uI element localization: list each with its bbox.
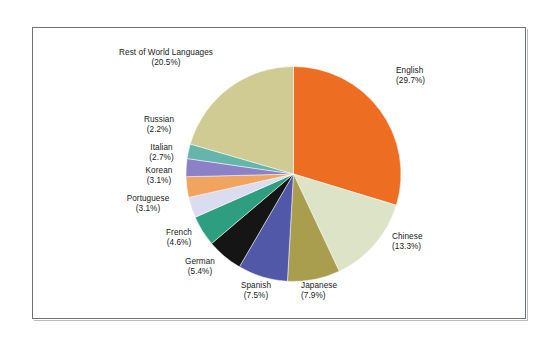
slice-label-percent: (29.7%) xyxy=(396,76,476,86)
slice-label-name: English xyxy=(396,66,476,76)
slice-label-percent: (20.5%) xyxy=(97,58,235,68)
slice-label-chinese: Chinese (13.3%) xyxy=(392,232,472,253)
slice-label-english: English (29.7%) xyxy=(396,66,476,87)
pie-chart-figure: Rest of World Languages (20.5%) English … xyxy=(0,0,555,345)
slice-label-percent: (2.2%) xyxy=(126,125,192,135)
slice-label-percent: (2.7%) xyxy=(133,153,190,163)
slice-label-percent: (7.5%) xyxy=(222,291,290,301)
slice-label-russian: Russian (2.2%) xyxy=(126,115,192,136)
slice-label-name: Portuguese xyxy=(107,194,189,204)
slice-label-name: Spanish xyxy=(222,281,290,291)
slice-label-percent: (13.3%) xyxy=(392,242,472,252)
slice-label-japanese: Japanese (7.9%) xyxy=(301,281,371,302)
pie-slice-group xyxy=(186,66,401,281)
slice-label-name: Russian xyxy=(126,115,192,125)
slice-label-name: German xyxy=(168,257,232,267)
slice-label-percent: (3.1%) xyxy=(128,176,190,186)
slice-label-name: Japanese xyxy=(301,281,371,291)
slice-label-rest-of-world: Rest of World Languages (20.5%) xyxy=(97,48,235,69)
slice-label-percent: (3.1%) xyxy=(107,204,189,214)
slice-label-name: Chinese xyxy=(392,232,472,242)
slice-label-percent: (4.6%) xyxy=(148,238,210,248)
slice-label-korean: Korean (3.1%) xyxy=(128,166,190,187)
slice-label-spanish: Spanish (7.5%) xyxy=(222,281,290,302)
slice-label-name: Korean xyxy=(128,166,190,176)
slice-label-name: French xyxy=(148,228,210,238)
slice-label-german: German (5.4%) xyxy=(168,257,232,278)
slice-label-percent: (7.9%) xyxy=(301,291,371,301)
slice-label-portuguese: Portuguese (3.1%) xyxy=(107,194,189,215)
slice-label-name: Rest of World Languages xyxy=(97,48,235,58)
slice-label-percent: (5.4%) xyxy=(168,267,232,277)
slice-label-french: French (4.6%) xyxy=(148,228,210,249)
slice-label-italian: Italian (2.7%) xyxy=(133,143,190,164)
slice-label-name: Italian xyxy=(133,143,190,153)
